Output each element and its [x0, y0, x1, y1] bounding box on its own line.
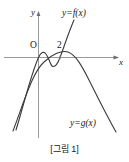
y-axis-label: y [31, 8, 35, 17]
curve-f [16, 20, 74, 130]
figure-caption: [그림 1] [0, 142, 129, 155]
curve-f-label: y=f(x) [62, 9, 86, 19]
curve-g-label: y=g(x) [70, 119, 96, 129]
origin-label: O [30, 41, 37, 51]
graph-plot-area [0, 0, 129, 140]
figure-container: y x O 2 y=f(x) y=g(x) [그림 1] [0, 0, 129, 162]
curve-g [13, 51, 116, 132]
x-axis-label: x [119, 58, 123, 67]
x-tick-label-2: 2 [57, 41, 62, 51]
y-axis-arrowhead [37, 11, 41, 16]
